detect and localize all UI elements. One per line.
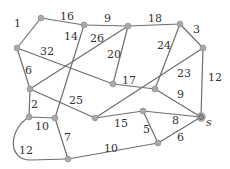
- edge-weight-label: 9: [104, 12, 111, 25]
- edge-weight-label: 12: [19, 144, 33, 157]
- edge-weight-label: 2: [31, 98, 38, 111]
- edge-weight-label: 5: [143, 123, 150, 136]
- edge-weight-label: 12: [208, 71, 222, 84]
- graph-node: [14, 45, 20, 51]
- edge-weight-label: 6: [177, 131, 184, 144]
- edge-weight-label: 1: [14, 17, 21, 30]
- edges: [13, 18, 203, 160]
- edge-weight-label: 16: [60, 10, 74, 23]
- edge-weight-label: 15: [114, 117, 128, 130]
- edge-weight-label: 7: [64, 131, 71, 144]
- edge-weight-label: 24: [157, 39, 171, 52]
- graph-node: [92, 115, 98, 121]
- graph-node: [140, 108, 146, 114]
- graph-node: [52, 115, 58, 121]
- edge-weight-label: 10: [35, 120, 49, 133]
- edge-n12-n13: [29, 117, 55, 118]
- edge-weight-label: 10: [104, 142, 118, 155]
- graph-node: [65, 156, 71, 162]
- edge-weight-label: 14: [64, 30, 78, 43]
- graph-node: [155, 140, 161, 146]
- graph-node: [177, 21, 183, 27]
- edge-weight-label: 20: [107, 48, 121, 61]
- edge-weight-label: 18: [148, 12, 162, 25]
- edge-weight-label: 3: [193, 23, 200, 36]
- source-node-label: s: [206, 116, 212, 129]
- edge-n2-n3: [84, 25, 128, 26]
- source-node: [198, 114, 203, 119]
- edge-weight-label: 6: [25, 64, 32, 77]
- graph-node: [27, 86, 33, 92]
- graph-node: [152, 86, 158, 92]
- graph-node: [81, 22, 87, 28]
- graph-node: [125, 23, 131, 29]
- edge-weight-label: 8: [172, 114, 179, 127]
- edge-weight-label: 32: [40, 45, 54, 58]
- edge-weight-label: 9: [177, 88, 184, 101]
- edge-weight-label: 26: [90, 32, 104, 45]
- edge-weight-label: 25: [69, 94, 83, 107]
- edge-n7-n12: [29, 89, 30, 117]
- edge-n5-s: [201, 48, 203, 117]
- graph-node: [200, 45, 206, 51]
- edge-weight-label: 17: [122, 74, 136, 87]
- graph-node: [26, 114, 32, 120]
- edge-weight-label: 23: [177, 67, 191, 80]
- graph-node: [110, 81, 116, 87]
- graph-node: [38, 15, 44, 21]
- graph-diagram: 1169183142632202461723122592158510761012…: [0, 0, 230, 169]
